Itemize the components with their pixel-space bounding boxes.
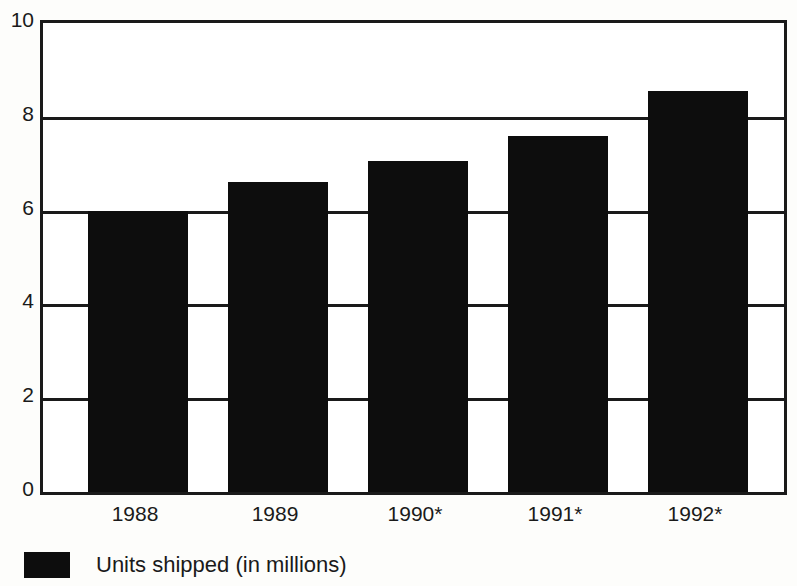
legend-label-units-shipped: Units shipped (in millions): [96, 552, 347, 578]
bar-1989: [228, 182, 328, 492]
bar-1988: [88, 211, 188, 492]
bar-1992: [648, 91, 748, 492]
y-tick-label-4: 4: [0, 290, 34, 311]
x-axis: 1988 1989 1990* 1991* 1992*: [40, 501, 787, 531]
x-tick-label-1992: 1992*: [645, 501, 745, 527]
y-tick-label-8: 8: [0, 103, 34, 124]
y-tick-label-2: 2: [0, 384, 34, 405]
bar-1991: [508, 136, 608, 492]
y-tick-label-0: 0: [0, 478, 34, 499]
x-tick-label-1989: 1989: [225, 501, 325, 527]
x-tick-label-1991: 1991*: [505, 501, 605, 527]
x-tick-label-1990: 1990*: [365, 501, 465, 527]
bar-chart-figure: 10 8 6 4 2 0 1988 1989 1990* 1991*: [0, 0, 797, 586]
legend-swatch-units-shipped: [24, 552, 70, 578]
chart-legend: Units shipped (in millions): [24, 552, 347, 578]
y-tick-label-6: 6: [0, 197, 34, 218]
y-axis: 10 8 6 4 2 0: [0, 20, 34, 495]
page-background: 10 8 6 4 2 0 1988 1989 1990* 1991*: [0, 0, 797, 586]
y-tick-label-10: 10: [0, 9, 34, 30]
plot-area: [40, 20, 787, 495]
bar-1990: [368, 161, 468, 492]
x-tick-label-1988: 1988: [85, 501, 185, 527]
